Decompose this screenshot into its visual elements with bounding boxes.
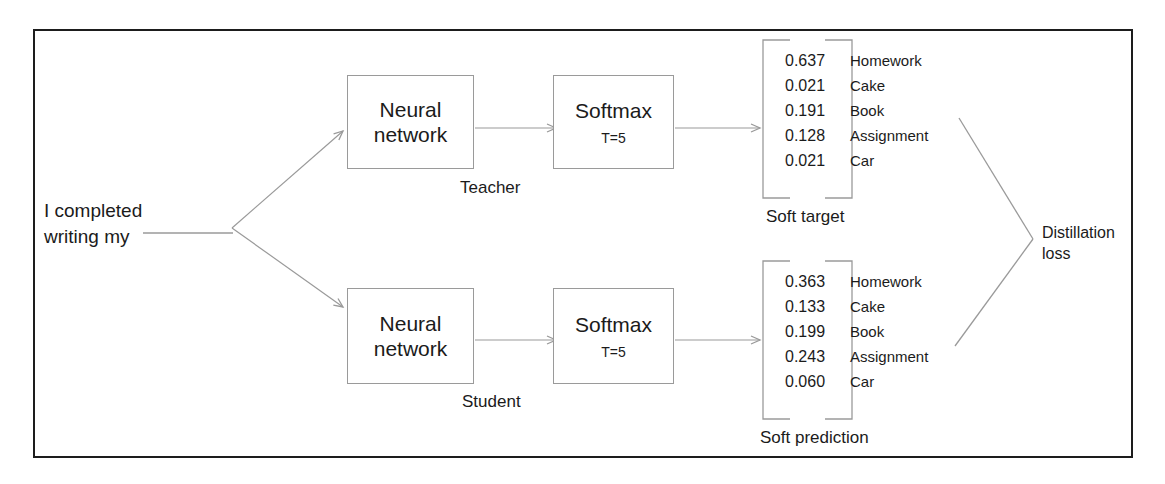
soft-prediction-label: Assignment bbox=[841, 348, 928, 365]
soft-target-value: 0.128 bbox=[763, 127, 841, 145]
teacher-neural-network-label: Neural network bbox=[374, 97, 448, 147]
soft-target-label: Car bbox=[841, 152, 874, 169]
student-softmax-box[interactable]: Softmax T=5 bbox=[553, 288, 674, 384]
soft-prediction-row: 0.133 Cake bbox=[763, 298, 928, 323]
student-neural-network-box[interactable]: Neural network bbox=[347, 288, 474, 384]
soft-target-value: 0.191 bbox=[763, 102, 841, 120]
soft-prediction-value: 0.060 bbox=[763, 373, 841, 391]
soft-target-row: 0.021 Cake bbox=[763, 77, 928, 102]
soft-target-caption: Soft target bbox=[766, 207, 844, 227]
soft-prediction-value: 0.133 bbox=[763, 298, 841, 316]
student-neural-network-label: Neural network bbox=[374, 311, 448, 361]
soft-target-row: 0.191 Book bbox=[763, 102, 928, 127]
teacher-softmax-box[interactable]: Softmax T=5 bbox=[553, 75, 674, 169]
soft-prediction-label: Cake bbox=[841, 298, 885, 315]
student-softmax-temperature: T=5 bbox=[601, 344, 626, 360]
soft-target-label: Homework bbox=[841, 52, 922, 69]
soft-target-label: Book bbox=[841, 102, 884, 119]
soft-target-vector: 0.637 Homework 0.021 Cake 0.191 Book 0.1… bbox=[763, 52, 928, 177]
soft-prediction-value: 0.363 bbox=[763, 273, 841, 291]
soft-prediction-label: Car bbox=[841, 373, 874, 390]
student-softmax-label: Softmax bbox=[575, 312, 652, 337]
soft-prediction-caption: Soft prediction bbox=[760, 428, 869, 448]
soft-target-row: 0.128 Assignment bbox=[763, 127, 928, 152]
soft-prediction-label: Book bbox=[841, 323, 884, 340]
student-role-label: Student bbox=[462, 392, 521, 412]
teacher-softmax-temperature: T=5 bbox=[601, 130, 626, 146]
teacher-neural-network-box[interactable]: Neural network bbox=[347, 75, 474, 169]
soft-prediction-vector: 0.363 Homework 0.133 Cake 0.199 Book 0.2… bbox=[763, 273, 928, 398]
soft-target-value: 0.637 bbox=[763, 52, 841, 70]
soft-prediction-row: 0.363 Homework bbox=[763, 273, 928, 298]
soft-target-label: Cake bbox=[841, 77, 885, 94]
soft-prediction-value: 0.243 bbox=[763, 348, 841, 366]
soft-prediction-value: 0.199 bbox=[763, 323, 841, 341]
soft-prediction-label: Homework bbox=[841, 273, 922, 290]
soft-prediction-row: 0.199 Book bbox=[763, 323, 928, 348]
teacher-softmax-label: Softmax bbox=[575, 98, 652, 123]
diagram-canvas: I completed writing my Neural network So… bbox=[0, 0, 1165, 484]
soft-prediction-row: 0.060 Car bbox=[763, 373, 928, 398]
soft-target-row: 0.637 Homework bbox=[763, 52, 928, 77]
teacher-role-label: Teacher bbox=[460, 178, 520, 198]
soft-target-value: 0.021 bbox=[763, 77, 841, 95]
distillation-loss-label: Distillation loss bbox=[1042, 223, 1115, 265]
soft-target-value: 0.021 bbox=[763, 152, 841, 170]
soft-target-label: Assignment bbox=[841, 127, 928, 144]
input-prompt-text: I completed writing my bbox=[44, 198, 142, 249]
soft-prediction-row: 0.243 Assignment bbox=[763, 348, 928, 373]
soft-target-row: 0.021 Car bbox=[763, 152, 928, 177]
